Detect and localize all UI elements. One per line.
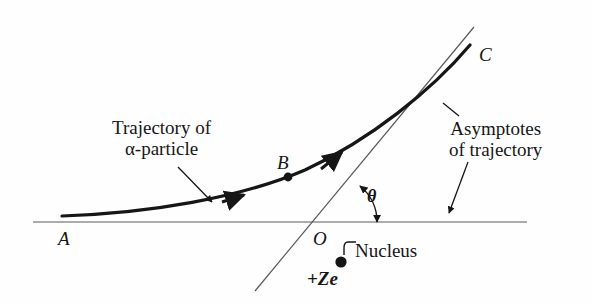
trajectory-annotation-line2: α-particle: [112, 138, 211, 159]
trajectory-annotation: Trajectory of α-particle: [112, 117, 211, 160]
point-a-label: A: [58, 228, 70, 249]
theta-label: θ: [367, 186, 376, 206]
point-o-label: O: [313, 228, 327, 249]
asymptote-leader-arrow-upper: [443, 103, 459, 116]
asymptote-leader-arrow-lower: [449, 162, 468, 213]
asymptotes-annotation: Asymptotes of trajectory: [449, 118, 542, 161]
nucleus-label: Nucleus: [355, 240, 417, 261]
nucleus-dot: [335, 256, 346, 267]
trajectory-annotation-line1: Trajectory of: [112, 117, 211, 138]
scattering-diagram: A B C O θ Trajectory of α-particle Asymp…: [0, 0, 593, 303]
nucleus-charge-label: +Ze: [307, 268, 338, 289]
point-c-label: C: [479, 44, 492, 65]
trajectory-leader-arrow: [178, 167, 212, 202]
point-b-label: B: [277, 152, 289, 173]
point-b-dot: [284, 173, 293, 182]
asymptotes-annotation-line2: of trajectory: [449, 139, 542, 160]
asymptotes-annotation-line1: Asymptotes: [449, 118, 542, 139]
